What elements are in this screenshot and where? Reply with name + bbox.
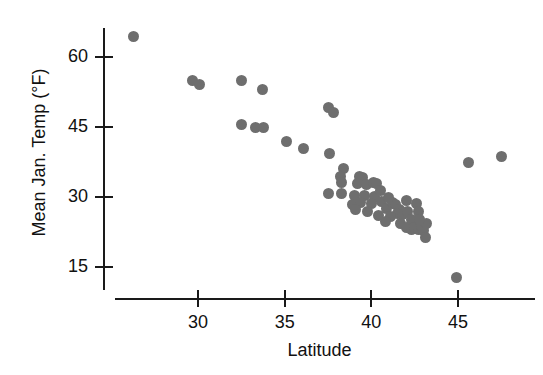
- data-point: [128, 31, 139, 42]
- data-point: [298, 143, 309, 154]
- y-axis-tick-label-wrap: 15: [54, 256, 88, 276]
- y-axis-tick: [95, 56, 113, 58]
- data-point: [336, 188, 347, 199]
- data-point: [350, 204, 361, 215]
- data-point: [323, 188, 334, 199]
- x-axis-line: [115, 298, 535, 300]
- data-point: [380, 216, 391, 227]
- data-point: [281, 136, 292, 147]
- y-axis-tick: [95, 196, 113, 198]
- x-axis-title: Latitude: [0, 340, 543, 361]
- y-axis-tick-label-wrap: 60: [54, 46, 88, 66]
- data-point: [451, 272, 462, 283]
- data-point: [324, 148, 335, 159]
- data-point: [236, 75, 247, 86]
- y-axis-tick-label-wrap: 45: [54, 116, 88, 136]
- x-axis-tick: [284, 290, 286, 307]
- x-axis-tick: [370, 290, 372, 307]
- data-point: [328, 107, 339, 118]
- x-axis-tick: [197, 290, 199, 307]
- data-point: [401, 195, 412, 206]
- y-axis-tick: [95, 266, 113, 268]
- data-point: [194, 79, 205, 90]
- data-point: [362, 206, 373, 217]
- x-axis-tick-label: 35: [265, 312, 305, 333]
- y-axis-tick-label: 15: [54, 256, 88, 277]
- data-point: [257, 84, 268, 95]
- data-point: [463, 157, 474, 168]
- data-point: [258, 122, 269, 133]
- data-point: [496, 151, 507, 162]
- y-axis-tick-label-wrap: 30: [54, 186, 88, 206]
- y-axis-tick-label: 45: [54, 116, 88, 137]
- data-point: [420, 232, 431, 243]
- plot-area: 15304560 30354045 Mean Jan. Temp (°F) La…: [0, 0, 543, 375]
- y-axis-title: Mean Jan. Temp (°F): [29, 18, 50, 288]
- x-axis-tick-label: 45: [438, 312, 478, 333]
- y-axis-line: [103, 28, 105, 290]
- x-axis-tick-label: 30: [178, 312, 218, 333]
- data-point: [336, 177, 347, 188]
- x-axis-tick: [457, 290, 459, 307]
- x-axis-tick-label: 40: [351, 312, 391, 333]
- y-axis-tick-label: 60: [54, 46, 88, 67]
- y-axis-tick-label: 30: [54, 186, 88, 207]
- scatter-plot-figure: 15304560 30354045 Mean Jan. Temp (°F) La…: [0, 0, 543, 375]
- data-point: [236, 119, 247, 130]
- y-axis-tick: [95, 126, 113, 128]
- data-point: [375, 185, 386, 196]
